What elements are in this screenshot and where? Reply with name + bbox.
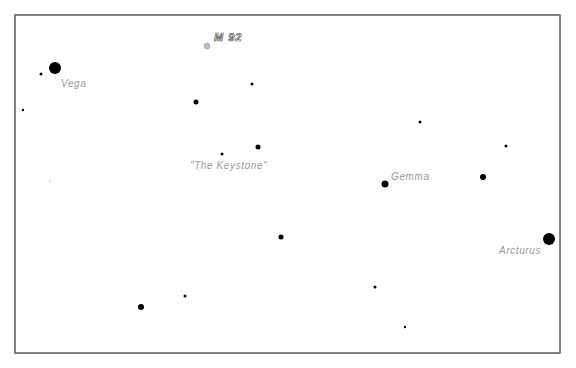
star-point[interactable] bbox=[49, 62, 61, 74]
star-point[interactable] bbox=[382, 181, 389, 188]
m92-cluster-icon[interactable] bbox=[204, 43, 210, 49]
star-point[interactable] bbox=[221, 153, 224, 156]
label-keystone: "The Keystone" bbox=[190, 160, 267, 171]
star-point[interactable] bbox=[279, 235, 284, 240]
star-point[interactable] bbox=[251, 83, 254, 86]
star-point[interactable] bbox=[543, 233, 555, 245]
star-point[interactable] bbox=[184, 295, 187, 298]
star-point[interactable] bbox=[419, 121, 422, 124]
label-gemma: Gemma bbox=[391, 171, 430, 182]
star-point[interactable] bbox=[22, 109, 24, 111]
chart-frame bbox=[15, 15, 560, 353]
star-point[interactable] bbox=[505, 145, 508, 148]
label-arcturus: Arcturus bbox=[498, 245, 541, 256]
label-m92: M 92 bbox=[214, 31, 242, 43]
star-point[interactable] bbox=[194, 100, 199, 105]
star-point[interactable] bbox=[480, 174, 486, 180]
star-point[interactable] bbox=[404, 326, 406, 328]
star-point[interactable] bbox=[40, 73, 43, 76]
star-point[interactable] bbox=[256, 145, 261, 150]
faint-mark bbox=[49, 180, 51, 182]
star-point[interactable] bbox=[374, 286, 377, 289]
label-vega: Vega bbox=[61, 78, 86, 89]
star-point[interactable] bbox=[138, 304, 144, 310]
star-chart: M 92 Vega "The Keystone" Gemma Arcturus bbox=[0, 0, 576, 368]
